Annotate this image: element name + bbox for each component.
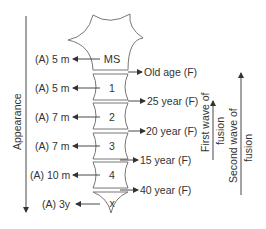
appearance-label-x: (A) 3y — [42, 199, 70, 210]
fusion-label-2: 20 year (F) — [146, 126, 197, 137]
segment-label-3: 3 — [100, 141, 124, 152]
fusion-label-ms: Old age (F) — [144, 67, 197, 78]
segment-label-1: 1 — [100, 83, 124, 94]
appearance-label-3: (A) 7 m — [35, 141, 69, 152]
appearance-axis-label: Appearance — [12, 93, 23, 150]
fusion-label-1: 25 year (F) — [147, 96, 198, 107]
segment-label-4: 4 — [100, 170, 124, 181]
segment-label-2: 2 — [100, 112, 124, 123]
first-wave-label-line2: fusion — [215, 117, 226, 145]
segment-label-x: x — [100, 198, 124, 209]
appearance-label-ms: (A) 5 m — [35, 54, 69, 65]
appearance-label-4: (A) 10 m — [30, 170, 70, 181]
second-wave-label-line1: Second wave of — [228, 108, 239, 183]
segment-label-ms: MS — [100, 54, 124, 65]
second-wave-label-line2: fusion — [243, 134, 254, 162]
appearance-label-2: (A) 7 m — [35, 112, 69, 123]
fusion-label-3: 15 year (F) — [140, 155, 191, 166]
fusion-label-4: 40 year (F) — [140, 185, 191, 196]
sternum-ossification-diagram: MS 1 2 3 4 x (A) 5 m (A) 5 m (A) 7 m (A)… — [0, 0, 266, 229]
appearance-label-1: (A) 5 m — [35, 83, 69, 94]
first-wave-label-line1: First wave of — [200, 92, 211, 152]
